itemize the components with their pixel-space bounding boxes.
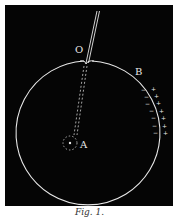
svg-text:−: − — [151, 114, 156, 121]
svg-text:+: + — [156, 99, 161, 106]
sphere-outline — [16, 61, 160, 205]
svg-text:−: − — [141, 86, 146, 93]
svg-text:+: + — [159, 107, 164, 114]
svg-text:−: − — [153, 129, 158, 136]
label-b: B — [135, 66, 142, 77]
figure-caption: Fig. 1. — [0, 207, 179, 217]
svg-text:+: + — [161, 114, 166, 121]
svg-text:−: − — [149, 107, 154, 114]
svg-text:+: + — [163, 129, 168, 136]
surface-charges: −+ −+ −+ −+ −+ −+ −+ — [141, 85, 168, 136]
label-a: A — [79, 139, 88, 150]
label-o: O — [75, 44, 83, 55]
svg-text:+: + — [154, 92, 159, 99]
svg-text:−: − — [145, 100, 150, 107]
svg-text:−: − — [144, 93, 149, 100]
rod-left — [86, 11, 97, 63]
svg-text:+: + — [151, 85, 156, 92]
dashed-path-left — [74, 66, 84, 135]
svg-text:+: + — [162, 122, 167, 129]
center-point-a — [69, 142, 71, 144]
diagram-svg: O B A −+ −+ −+ −+ −+ −+ −+ — [0, 0, 179, 220]
svg-text:−: − — [152, 122, 157, 129]
rod-right — [89, 11, 100, 63]
notch — [80, 61, 94, 64]
dashed-path-right — [77, 66, 87, 135]
